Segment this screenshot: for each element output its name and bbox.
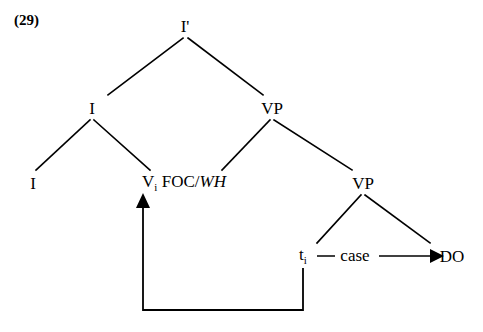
branch-i-to-ihead (36, 120, 90, 170)
branch-i-to-v (94, 120, 150, 170)
branch-vplower-to-trace (317, 195, 361, 243)
node-i-bar: I' (181, 18, 190, 35)
head-movement-arrowhead (136, 193, 150, 208)
syntax-tree-figure: (29) I' I VP I Vi FOC/WH VP ti DO case (0, 0, 483, 332)
tree-branch-lines (0, 0, 483, 332)
node-v-middle: FOC/ (157, 172, 199, 191)
node-v-foc-wh: Vi FOC/WH (142, 173, 226, 193)
node-do: DO (440, 248, 465, 265)
case-relation-label: case (340, 246, 369, 266)
node-trace: ti (299, 246, 307, 266)
node-vp-upper: VP (261, 100, 283, 117)
node-trace-subscript: i (304, 254, 307, 266)
node-vp-lower: VP (352, 175, 374, 192)
node-i-phrase: I (89, 100, 95, 117)
branch-vp-to-vplower (274, 120, 352, 170)
branch-root-to-i (108, 38, 183, 95)
branch-vplower-to-do (365, 195, 430, 243)
head-movement-arrow-path (143, 205, 303, 310)
node-v-base: V (142, 172, 154, 191)
branch-root-to-vp (188, 38, 263, 95)
branch-vp-to-v (222, 120, 270, 170)
node-v-italic-wh: WH (199, 172, 225, 191)
node-i-head: I (30, 175, 36, 192)
